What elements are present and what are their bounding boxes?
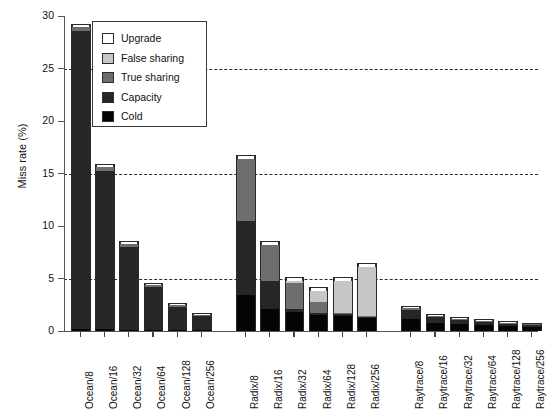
x-tick [177,332,178,337]
bar-ocean-32[interactable] [119,241,139,331]
legend-swatch-icon [102,111,114,122]
bar-segment-capacity [237,221,255,296]
x-tick-label: Ocean/32 [132,366,143,409]
y-tick-label: 15 [26,168,54,179]
legend-label: False sharing [121,53,184,64]
bar-radix-256[interactable] [357,263,377,331]
bar-segment-cold [145,330,163,331]
bar-segment-false-sharing [310,291,328,302]
x-tick [410,332,411,337]
bar-segment-cold [96,329,114,331]
bar-segment-cold [72,329,90,331]
bar-raytrace-128[interactable] [498,321,518,331]
legend-item-upgrade[interactable]: Upgrade [102,29,198,49]
y-tick-label: 10 [26,220,54,231]
y-tick-label: 0 [26,325,54,336]
bar-raytrace-32[interactable] [450,317,470,331]
x-tick [342,332,343,337]
bar-segment-cold [237,295,255,331]
bar-ocean-64[interactable] [144,283,164,331]
bar-raytrace-8[interactable] [401,306,421,331]
bar-raytrace-16[interactable] [426,314,446,331]
bar-radix-128[interactable] [333,277,353,331]
x-tick [104,332,105,337]
legend-swatch-icon [102,72,114,83]
bar-segment-cold [334,316,352,331]
x-tick [80,332,81,337]
bar-radix-64[interactable] [309,287,329,331]
x-tick-label: Raytrace/128 [511,350,522,409]
bar-segment-capacity [261,281,279,309]
y-tick-label: 20 [26,115,54,126]
bar-ocean-256[interactable] [192,313,212,331]
bar-raytrace-256[interactable] [522,323,542,331]
x-tick [483,332,484,337]
legend-swatch-icon [102,33,114,44]
bar-segment-true-sharing [261,245,279,281]
bar-radix-32[interactable] [285,277,305,331]
y-tick-label: 30 [26,10,54,21]
x-tick [459,332,460,337]
x-tick-label: Raytrace/32 [463,355,474,409]
x-tick-label: Radix/16 [273,370,284,409]
bar-ocean-16[interactable] [95,164,115,331]
bar-segment-cold [451,324,469,331]
bar-segment-false-sharing [334,281,352,314]
bar-segment-cold [261,309,279,331]
bar-segment-true-sharing [286,283,304,309]
x-axis-line [64,331,538,332]
legend-item-cold[interactable]: Cold [102,107,198,127]
legend-item-true-sharing[interactable]: True sharing [102,68,198,88]
legend-label: Cold [121,111,143,122]
x-tick-label: Radix/8 [249,375,260,409]
bar-segment-capacity [120,247,138,329]
y-tick-label: 25 [26,63,54,74]
x-tick [531,332,532,337]
bar-segment-capacity [169,307,187,331]
x-tick-label: Raytrace/8 [414,361,425,409]
x-tick-label: Raytrace/16 [438,355,449,409]
bar-segment-true-sharing [310,302,328,313]
bar-segment-cold [310,315,328,331]
legend-item-capacity[interactable]: Capacity [102,88,198,108]
bar-radix-16[interactable] [260,241,280,331]
bar-segment-true-sharing [237,159,255,221]
bar-ocean-128[interactable] [168,303,188,331]
x-tick [128,332,129,337]
bar-segment-cold [402,319,420,331]
bar-segment-cold [358,318,376,331]
x-tick [434,332,435,337]
x-tick [269,332,270,337]
x-tick [152,332,153,337]
x-tick-label: Ocean/256 [205,360,216,409]
bar-segment-cold [427,323,445,331]
bar-segment-capacity [96,171,114,330]
bar-segment-cold [523,327,541,331]
bar-segment-capacity [72,31,90,329]
bar-segment-cold [286,312,304,331]
bar-segment-cold [120,330,138,331]
legend-label: True sharing [121,72,180,83]
x-tick-label: Radix/128 [346,364,357,409]
x-tick-label: Radix/256 [370,364,381,409]
bar-radix-8[interactable] [236,155,256,331]
x-tick [507,332,508,337]
bar-segment-cold [193,330,211,331]
bar-ocean-8[interactable] [71,24,91,331]
bar-segment-capacity [193,316,211,330]
chart-canvas: Miss rate (%) 051015202530 Ocean/8Ocean/… [0,0,547,414]
legend-item-false-sharing[interactable]: False sharing [102,49,198,69]
y-tick-label: 5 [26,273,54,284]
x-tick [293,332,294,337]
bar-segment-cold [499,326,517,331]
legend-swatch-icon [102,92,114,103]
x-tick-label: Radix/64 [322,370,333,409]
x-tick-label: Raytrace/256 [535,350,546,409]
bar-segment-cold [169,330,187,331]
x-tick [201,332,202,337]
bar-segment-capacity [402,310,420,319]
bar-raytrace-64[interactable] [474,319,494,331]
x-tick [366,332,367,337]
legend: UpgradeFalse sharingTrue sharingCapacity… [92,21,207,127]
bar-segment-cold [475,325,493,331]
